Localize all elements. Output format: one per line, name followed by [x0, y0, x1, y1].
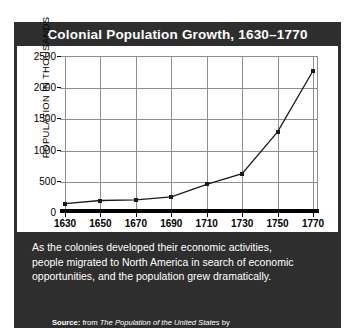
y-axis-tick-label: 1000 — [34, 144, 56, 155]
data-point — [63, 202, 67, 206]
x-axis-tick-label: 1670 — [125, 218, 147, 229]
x-axis-tick-mark — [136, 213, 137, 217]
infographic-card: Colonial Population Growth, 1630–1770 PO… — [14, 22, 341, 328]
source-label: Source: — [52, 318, 80, 327]
caption-line-3: opportunities, and the population grew d… — [32, 269, 324, 284]
source-prefix: from — [82, 318, 97, 327]
x-axis-tick-mark — [100, 213, 101, 217]
x-axis-tick-label: 1690 — [160, 218, 182, 229]
source-line-1: Source: from The Population of the Unite… — [52, 318, 332, 328]
y-axis-tick-mark — [57, 181, 61, 182]
caption-line-1: As the colonies developed their economic… — [32, 240, 324, 255]
chart-panel: POPULATION IN THOUSANDS 0500100015002000… — [17, 46, 338, 232]
source-by: by — [222, 318, 230, 327]
caption-text: As the colonies developed their economic… — [32, 240, 324, 284]
x-axis-tick-label: 1770 — [302, 218, 324, 229]
data-point — [169, 195, 173, 199]
y-axis-tick-label: 1500 — [34, 113, 56, 124]
x-axis-tick-mark — [242, 213, 243, 217]
x-axis-tick-mark — [207, 213, 208, 217]
data-point — [98, 199, 102, 203]
x-axis-tick-label: 1710 — [196, 218, 218, 229]
x-axis-tick-mark — [313, 213, 314, 217]
data-point — [134, 198, 138, 202]
x-axis-tick-label: 1730 — [231, 218, 253, 229]
x-axis-tick-mark — [278, 213, 279, 217]
source-book-title: The Population of the United States — [100, 318, 220, 327]
series-line — [60, 57, 318, 213]
y-axis-labels: 05001000150020002500 — [17, 56, 56, 212]
y-axis-tick-mark — [57, 56, 61, 57]
y-axis-tick-label: 500 — [39, 175, 56, 186]
x-axis-tick-label: 1750 — [266, 218, 288, 229]
x-axis-tick-mark — [171, 213, 172, 217]
data-point — [240, 172, 244, 176]
y-axis-tick-label: 2000 — [34, 82, 56, 93]
page-title: Colonial Population Growth, 1630–1770 — [14, 22, 341, 46]
data-point — [205, 182, 209, 186]
y-axis-tick-label: 0 — [50, 207, 56, 218]
x-axis-tick-mark — [65, 213, 66, 217]
data-point — [311, 69, 315, 73]
x-axis-line — [60, 209, 319, 213]
y-axis-tick-mark — [57, 118, 61, 119]
caption-line-2: people migrated to North America in sear… — [32, 255, 324, 270]
x-axis-tick-label: 1630 — [54, 218, 76, 229]
x-axis-tick-label: 1650 — [89, 218, 111, 229]
x-axis-labels: 16301650167016901710173017501770 — [60, 218, 319, 232]
plot-area — [60, 56, 318, 212]
y-axis-tick-mark — [57, 150, 61, 151]
y-axis-tick-label: 2500 — [34, 51, 56, 62]
data-point — [276, 130, 280, 134]
y-axis-tick-mark — [57, 87, 61, 88]
source-credit: Source: from The Population of the Unite… — [52, 318, 332, 328]
